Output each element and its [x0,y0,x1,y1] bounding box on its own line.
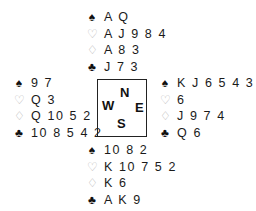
spade-icon: ♠ [11,75,27,91]
diamond-icon: ♢ [11,108,27,124]
north-diamonds-row: ♢A 8 3 [84,42,141,58]
compass-box: N W E S [97,79,147,137]
west-spades-cards: 9 7 [31,75,53,91]
north-clubs-cards: J 7 3 [104,59,139,75]
south-diamonds-row: ♢K 6 [84,175,128,191]
club-icon: ♣ [84,192,100,208]
south-hearts-row: ♡K 10 7 5 2 [84,159,177,175]
heart-icon: ♡ [84,159,100,175]
heart-icon: ♡ [11,92,27,108]
south-diamonds-cards: K 6 [104,175,128,191]
south-clubs-row: ♣A K 9 [84,192,142,208]
east-clubs-row: ♣Q 6 [157,125,202,141]
spade-icon: ♠ [84,142,100,158]
diamond-icon: ♢ [84,42,100,58]
east-diamonds-cards: J 9 7 4 [177,108,226,124]
south-spades-cards: 10 8 2 [104,142,148,158]
east-hearts-cards: 6 [177,92,186,108]
west-hearts-cards: Q 3 [31,92,56,108]
diamond-icon: ♢ [157,108,173,124]
north-hearts-cards: A J 9 8 4 [104,26,167,42]
east-hearts-row: ♡6 [157,92,186,108]
spade-icon: ♠ [84,9,100,25]
west-diamonds-row: ♢Q 10 5 2 [11,108,92,124]
west-clubs-cards: 10 8 5 4 2 [31,125,103,141]
compass-south-label: S [117,116,126,131]
diamond-icon: ♢ [84,175,100,191]
west-spades-row: ♠9 7 [11,75,53,91]
east-clubs-cards: Q 6 [177,125,202,141]
spade-icon: ♠ [157,75,173,91]
south-hearts-cards: K 10 7 5 2 [104,159,177,175]
north-hearts-row: ♡A J 9 8 4 [84,26,167,42]
club-icon: ♣ [157,125,173,141]
compass-west-label: W [102,98,114,113]
north-spades-cards: A Q [104,9,130,25]
compass-north-label: N [120,85,129,100]
east-diamonds-row: ♢J 9 7 4 [157,108,226,124]
heart-icon: ♡ [157,92,173,108]
club-icon: ♣ [84,59,100,75]
north-diamonds-cards: A 8 3 [104,42,141,58]
compass-east-label: E [135,100,144,115]
east-spades-row: ♠K J 6 5 4 3 [157,75,254,91]
east-spades-cards: K J 6 5 4 3 [177,75,254,91]
north-spades-row: ♠A Q [84,9,130,25]
west-diamonds-cards: Q 10 5 2 [31,108,92,124]
south-spades-row: ♠10 8 2 [84,142,148,158]
south-clubs-cards: A K 9 [104,192,142,208]
heart-icon: ♡ [84,26,100,42]
club-icon: ♣ [11,125,27,141]
north-clubs-row: ♣J 7 3 [84,59,139,75]
west-hearts-row: ♡Q 3 [11,92,56,108]
west-clubs-row: ♣10 8 5 4 2 [11,125,103,141]
